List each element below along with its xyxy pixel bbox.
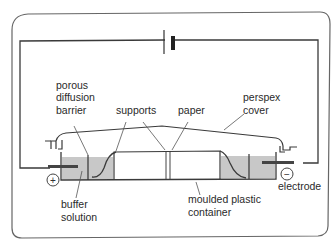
label-solution: solution bbox=[61, 211, 97, 223]
leader-supports-left bbox=[116, 122, 126, 151]
right-buffer-solution bbox=[221, 156, 275, 178]
label-diffusion: diffusion bbox=[56, 91, 95, 103]
label-porous: porous bbox=[56, 79, 88, 91]
label-electrode: electrode bbox=[278, 180, 321, 192]
label-cover: cover bbox=[243, 104, 269, 116]
label-paper: paper bbox=[178, 104, 205, 116]
right-electrode bbox=[262, 161, 294, 164]
left-electrode bbox=[48, 165, 78, 168]
label-container: container bbox=[188, 206, 232, 218]
electrophoresis-diagram: + − porous diffusion barrier supports pa… bbox=[0, 0, 336, 252]
raised-platform bbox=[114, 151, 220, 180]
label-buffer: buffer bbox=[61, 198, 88, 210]
label-moulded-plastic: moulded plastic bbox=[188, 193, 261, 205]
battery-short-plate bbox=[171, 36, 175, 50]
label-perspex: perspex bbox=[243, 91, 281, 103]
leader-paper bbox=[172, 122, 188, 150]
label-barrier: barrier bbox=[56, 104, 87, 116]
positive-symbol: + bbox=[50, 175, 56, 186]
leader-porous-barrier bbox=[74, 126, 88, 155]
label-supports: supports bbox=[116, 104, 156, 116]
leader-perspex-cover bbox=[224, 114, 244, 130]
negative-symbol: − bbox=[284, 169, 290, 180]
